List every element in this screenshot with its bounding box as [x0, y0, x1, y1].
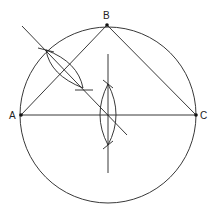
- label-a: A: [9, 110, 16, 121]
- point-a: [19, 113, 23, 117]
- point-c: [194, 113, 198, 117]
- geometry-diagram: A B C: [0, 0, 211, 212]
- label-b: B: [103, 10, 110, 21]
- bisector-ab: [22, 26, 127, 135]
- label-c: C: [200, 110, 207, 121]
- arc-lens-ac-2: [108, 84, 116, 145]
- point-b: [105, 23, 109, 27]
